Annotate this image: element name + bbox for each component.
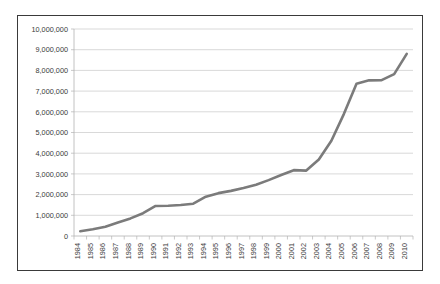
y-axis-label: 4,000,000	[36, 149, 68, 158]
y-axis-label: 9,000,000	[36, 45, 68, 54]
x-axis-label: 1996	[224, 243, 233, 259]
y-axis-label: 10,000,000	[31, 25, 68, 34]
x-axis-label: 2002	[299, 243, 308, 259]
x-axis-label: 2004	[324, 243, 333, 259]
y-axis-label: 0	[64, 232, 68, 241]
x-axis-label: 2006	[350, 243, 359, 259]
x-axis-label: 2010	[400, 243, 409, 259]
x-axis-label: 1995	[211, 243, 220, 259]
x-axis-label: 2008	[375, 243, 384, 259]
y-axis-label: 5,000,000	[36, 128, 68, 137]
y-axis-label: 3,000,000	[36, 170, 68, 179]
x-axis-label: 2003	[312, 243, 321, 259]
x-axis-label: 1997	[237, 243, 246, 259]
y-axis-label: 2,000,000	[36, 190, 68, 199]
x-axis-label: 1987	[111, 243, 120, 259]
x-axis-label: 2007	[362, 243, 371, 259]
x-axis-label: 1990	[149, 243, 158, 259]
x-axis-label: 1985	[86, 243, 95, 259]
x-axis-label: 1991	[161, 243, 170, 259]
x-axis-label: 1993	[186, 243, 195, 259]
y-axis-label: 7,000,000	[36, 87, 68, 96]
x-axis-label: 1989	[136, 243, 145, 259]
x-axis-label: 1986	[98, 243, 107, 259]
x-axis-label: 2000	[274, 243, 283, 259]
y-axis-label: 8,000,000	[36, 66, 68, 75]
y-axis-label: 6,000,000	[36, 108, 68, 117]
x-axis-label: 2001	[287, 243, 296, 259]
x-axis-label: 2005	[337, 243, 346, 259]
x-axis-label: 1998	[249, 243, 258, 259]
chart-frame: 01,000,0002,000,0003,000,0004,000,0005,0…	[17, 15, 423, 271]
y-axis-label: 1,000,000	[36, 211, 68, 220]
x-axis-label: 1992	[174, 243, 183, 259]
x-axis-label: 2009	[387, 243, 396, 259]
x-axis-label: 1999	[262, 243, 271, 259]
x-axis-label: 1988	[124, 243, 133, 259]
x-axis-label: 1994	[199, 243, 208, 259]
line-chart: 01,000,0002,000,0003,000,0004,000,0005,0…	[18, 16, 422, 270]
x-axis-label: 1984	[73, 243, 82, 259]
data-series-line	[80, 54, 406, 231]
